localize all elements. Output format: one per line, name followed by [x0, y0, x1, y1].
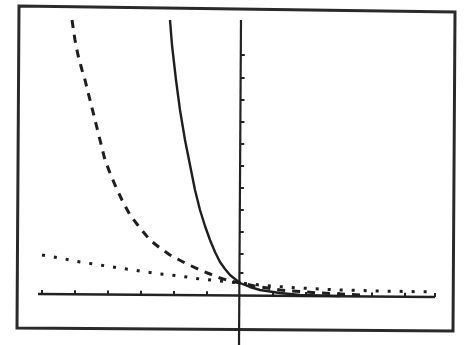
graph-screen [0, 0, 469, 345]
curve-solid [170, 20, 340, 296]
function-plot [0, 0, 469, 345]
x-axis [38, 294, 435, 297]
